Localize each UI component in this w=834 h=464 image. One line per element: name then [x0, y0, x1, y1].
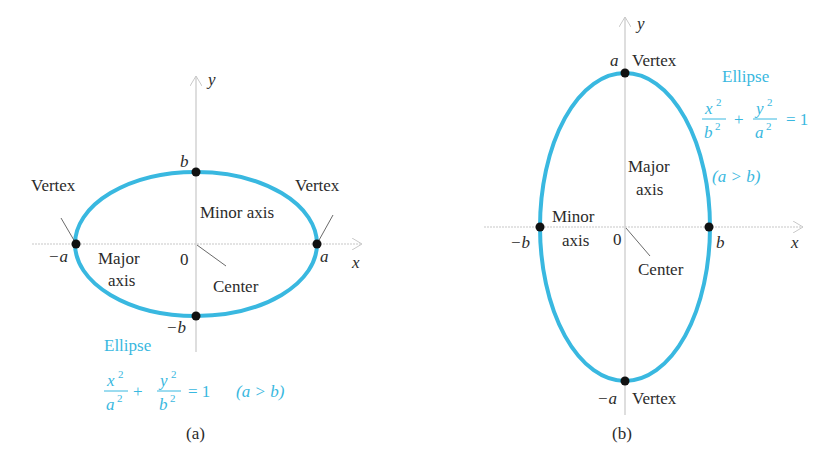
- svg-text:2: 2: [715, 120, 721, 132]
- point-neg-b-label: −b: [166, 318, 186, 337]
- origin-label: 0: [180, 250, 189, 269]
- svg-text:= 1: = 1: [786, 110, 808, 129]
- svg-text:2: 2: [716, 96, 722, 108]
- vertex-top-point: [621, 69, 630, 78]
- vertex-bottom-label: Vertex: [632, 389, 677, 408]
- svg-text:b: b: [704, 123, 713, 142]
- origin-label: 0: [613, 230, 622, 249]
- caption-a: (a): [186, 424, 205, 443]
- equation-a: x 2 a 2 + y 2 b 2 = 1 (a > b): [104, 368, 285, 414]
- center-label: Center: [213, 277, 259, 296]
- center-label: Center: [638, 260, 684, 279]
- major-axis-label-1: Major: [98, 249, 140, 268]
- panel-b: y x 0 a Vertex −a Vertex −b b Major axis…: [484, 14, 808, 443]
- point-neg-a-label: −a: [597, 389, 617, 408]
- svg-text:2: 2: [171, 368, 177, 380]
- major-axis-label-1: Major: [628, 157, 670, 176]
- vertex-bottom-point: [621, 377, 630, 386]
- point-b-label: b: [180, 152, 189, 171]
- center-pointer: [197, 245, 226, 266]
- svg-text:+: +: [133, 382, 143, 401]
- minor-axis-label: Minor axis: [200, 203, 274, 222]
- svg-text:x: x: [106, 371, 115, 390]
- caption-b: (b): [612, 424, 632, 443]
- covertex-top-point: [192, 168, 201, 177]
- vertex-left-pointer: [61, 218, 75, 242]
- panel-a: y x 0 b −b −a a Vertex Vertex Minor axis…: [31, 70, 362, 443]
- svg-text:(a > b): (a > b): [236, 382, 285, 401]
- svg-text:b: b: [159, 395, 168, 414]
- point-neg-a-label: −a: [48, 247, 68, 266]
- point-a-label: a: [610, 51, 619, 70]
- covertex-bottom-point: [192, 312, 201, 321]
- vertex-right-label: Vertex: [295, 176, 340, 195]
- svg-text:y: y: [754, 99, 764, 118]
- svg-text:= 1: = 1: [188, 382, 210, 401]
- minor-axis-label-2: axis: [562, 231, 589, 250]
- point-a-label: a: [320, 247, 329, 266]
- vertex-top-label: Vertex: [632, 51, 677, 70]
- ellipse-diagram: y x 0 b −b −a a Vertex Vertex Minor axis…: [0, 0, 834, 464]
- vertex-right-pointer: [318, 215, 333, 242]
- y-axis-label: y: [635, 14, 645, 33]
- svg-text:2: 2: [117, 392, 123, 404]
- y-axis-label: y: [206, 70, 216, 89]
- svg-text:y: y: [158, 371, 168, 390]
- svg-text:2: 2: [170, 392, 176, 404]
- covertex-right-point: [705, 223, 714, 232]
- major-axis-label-2: axis: [108, 271, 135, 290]
- point-neg-b-label: −b: [510, 233, 530, 252]
- major-axis-label-2: axis: [636, 180, 663, 199]
- ellipse-label: Ellipse: [722, 67, 769, 86]
- point-b-label: b: [716, 233, 725, 252]
- vertex-left-point: [72, 240, 81, 249]
- svg-text:2: 2: [766, 120, 772, 132]
- svg-text:x: x: [704, 99, 713, 118]
- svg-text:+: +: [734, 110, 744, 129]
- svg-text:a: a: [755, 123, 764, 142]
- vertex-left-label: Vertex: [31, 176, 76, 195]
- x-axis-label: x: [790, 233, 799, 252]
- svg-text:2: 2: [767, 96, 773, 108]
- x-axis-label: x: [351, 253, 360, 272]
- svg-text:a: a: [106, 395, 115, 414]
- center-pointer: [626, 228, 650, 256]
- ellipse-label: Ellipse: [104, 336, 151, 355]
- covertex-left-point: [536, 223, 545, 232]
- svg-text:2: 2: [118, 368, 124, 380]
- equation-b: x 2 b 2 + y 2 a 2 = 1 (a > b): [702, 96, 808, 186]
- svg-text:(a > b): (a > b): [712, 167, 761, 186]
- minor-axis-label-1: Minor: [552, 207, 595, 226]
